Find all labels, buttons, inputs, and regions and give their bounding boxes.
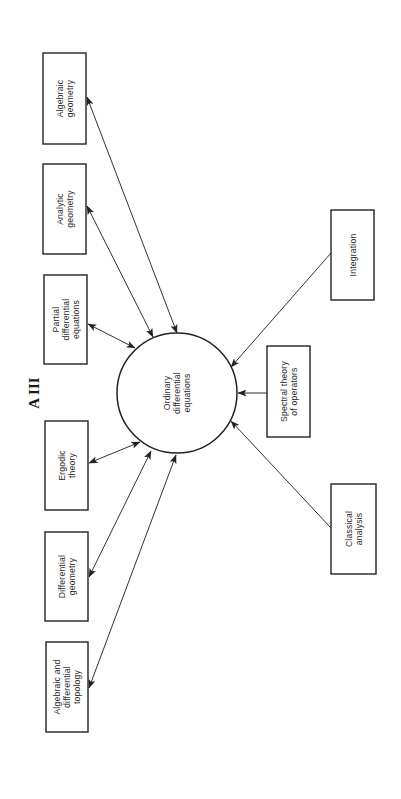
- node-label-line: analysis: [354, 513, 364, 546]
- node-classical-analysis: Classicalanalysis: [331, 484, 376, 574]
- hub-label-line: equations: [182, 373, 192, 412]
- node-ergodic-theory: Ergodictheory: [45, 421, 88, 510]
- node-label-line: of operators: [289, 367, 299, 415]
- edge-analytic-geometry-to-ode: [87, 206, 153, 337]
- node-label-line: Spectral theory: [279, 361, 289, 422]
- node-algebraic-geometry: Algebraicgeometry: [43, 53, 86, 144]
- node-analytic-geometry: Analyticgeometry: [43, 164, 86, 254]
- node-label-line: differential: [61, 299, 71, 341]
- figure-label: A III: [26, 377, 42, 408]
- diagram-canvas: AlgebraicgeometryAnalyticgeometryPartial…: [0, 0, 401, 799]
- node-label-line: Analytic: [55, 193, 65, 225]
- node-label-line: Differential: [57, 555, 67, 598]
- node-label-line: geometry: [65, 190, 75, 228]
- node-label-line: geometry: [65, 79, 75, 117]
- node-label-line: Algebraic and: [52, 659, 62, 714]
- node-label-line: topology: [72, 669, 82, 704]
- edge-partial-differential-equations-to-ode: [88, 324, 135, 348]
- edge-algebraic-differential-topology-to-ode: [89, 455, 176, 688]
- hub-label-line: Ordinary: [162, 375, 172, 410]
- node-label-line: Algebraic: [55, 79, 65, 117]
- node-label-line: differential: [62, 666, 72, 708]
- node-differential-geometry: Differentialgeometry: [45, 532, 88, 621]
- node-spectral-theory-of-operators: Spectral theoryof operators: [267, 346, 310, 437]
- hub-label-line: differential: [172, 372, 182, 414]
- node-label-line: equations: [71, 300, 81, 339]
- node-label-line: geometry: [67, 557, 77, 595]
- edge-algebraic-geometry-to-ode: [87, 97, 177, 333]
- node-label-line: theory: [67, 452, 77, 478]
- node-label-line: Integration: [348, 234, 358, 277]
- node-label-line: Ergodic: [57, 450, 67, 481]
- node-algebraic-differential-topology: Algebraic anddifferentialtopology: [46, 642, 88, 732]
- concept-map-diagram: AlgebraicgeometryAnalyticgeometryPartial…: [0, 0, 401, 799]
- node-label-line: Partial: [51, 307, 61, 333]
- edge-ergodic-theory-to-ode: [89, 442, 140, 463]
- node-label-line: Classical: [344, 511, 354, 547]
- node-integration: Integration: [331, 210, 374, 300]
- hub-node: Ordinarydifferentialequations: [117, 333, 237, 453]
- edge-differential-geometry-to-ode: [89, 451, 151, 577]
- node-partial-differential-equations: Partialdifferentialequations: [44, 275, 87, 364]
